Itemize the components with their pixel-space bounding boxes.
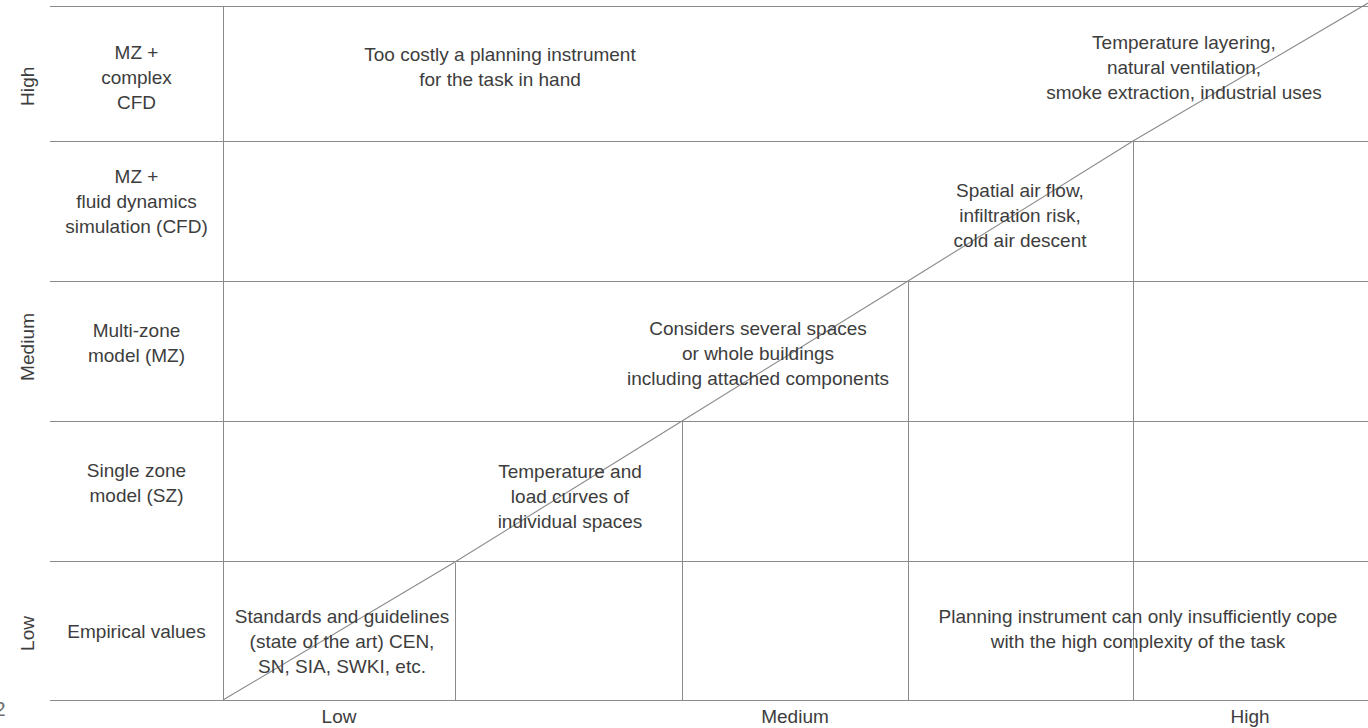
- x-axis-label-low: Low: [279, 706, 399, 728]
- note-line: with the high complexity of the task: [928, 629, 1348, 654]
- note-insufficient-capability: Planning instrument can only insufficien…: [928, 604, 1348, 654]
- note-line: for the task in hand: [240, 67, 760, 92]
- x-axis-label-high: High: [1190, 706, 1310, 728]
- row-label-mz-complex-cfd: MZ + complex CFD: [50, 40, 223, 115]
- note-high-complexity-capability: Temperature layering, natural ventilatio…: [1010, 30, 1358, 105]
- row-label-empirical-values: Empirical values: [50, 619, 223, 644]
- note-line: SN, SIA, SWKI, etc.: [229, 654, 455, 679]
- y-axis-label-medium-text: Medium: [17, 301, 39, 381]
- row-label-multi-zone-model: Multi-zone model (MZ): [50, 318, 223, 368]
- row-label-single-zone-model: Single zone model (SZ): [50, 458, 223, 508]
- note-line: Too costly a planning instrument: [240, 42, 760, 67]
- row-label-line: complex: [50, 65, 223, 90]
- row-label-line: fluid dynamics: [50, 189, 223, 214]
- row-label-line: Single zone: [50, 458, 223, 483]
- note-line: Considers several spaces: [608, 316, 908, 341]
- row-label-line: MZ +: [50, 164, 223, 189]
- x-axis-label-high-text: High: [1230, 706, 1269, 727]
- x-axis-label-medium-text: Medium: [761, 706, 829, 727]
- note-line: Planning instrument can only insufficien…: [928, 604, 1348, 629]
- note-line: including attached components: [608, 366, 908, 391]
- row-label-line: Empirical values: [50, 619, 223, 644]
- note-line: Temperature and: [458, 459, 682, 484]
- note-line: (state of the art) CEN,: [229, 629, 455, 654]
- row-label-line: model (SZ): [50, 483, 223, 508]
- row-label-line: model (MZ): [50, 343, 223, 368]
- note-line: load curves of: [458, 484, 682, 509]
- row-label-mz-fluid-dynamics: MZ + fluid dynamics simulation (CFD): [50, 164, 223, 239]
- row-label-line: Multi-zone: [50, 318, 223, 343]
- row-label-line: simulation (CFD): [50, 214, 223, 239]
- note-line: Spatial air flow,: [905, 178, 1135, 203]
- note-line: cold air descent: [905, 228, 1135, 253]
- x-axis-label-low-text: Low: [322, 706, 357, 727]
- row-label-line: MZ +: [50, 40, 223, 65]
- note-line: individual spaces: [458, 509, 682, 534]
- page-number: 2: [0, 697, 6, 721]
- note-line: infiltration risk,: [905, 203, 1135, 228]
- note-cfd-capability: Spatial air flow, infiltration risk, col…: [905, 178, 1135, 253]
- note-too-costly: Too costly a planning instrument for the…: [240, 42, 760, 92]
- x-axis-label-medium: Medium: [735, 706, 855, 728]
- note-singlezone-capability: Temperature and load curves of individua…: [458, 459, 682, 534]
- row-label-line: CFD: [50, 90, 223, 115]
- y-axis-label-low-text: Low: [17, 571, 39, 651]
- note-line: Standards and guidelines: [229, 604, 455, 629]
- complexity-matrix-diagram: High Medium Low MZ + complex CFD MZ + fl…: [0, 0, 1368, 728]
- note-line: Temperature layering,: [1010, 30, 1358, 55]
- note-line: or whole buildings: [608, 341, 908, 366]
- note-line: smoke extraction, industrial uses: [1010, 80, 1358, 105]
- y-axis-label-high-text: High: [17, 26, 39, 106]
- note-multizone-capability: Considers several spaces or whole buildi…: [608, 316, 908, 391]
- note-empirical-capability: Standards and guidelines (state of the a…: [229, 604, 455, 679]
- note-line: natural ventilation,: [1010, 55, 1358, 80]
